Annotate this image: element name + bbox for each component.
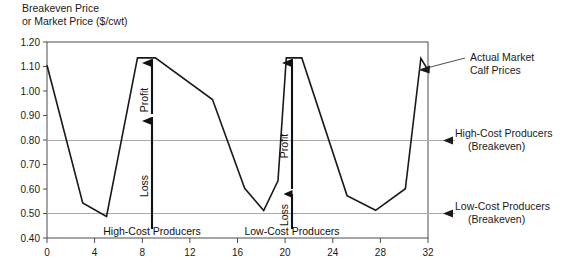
y-tick-label-0.60: 0.60: [21, 184, 41, 195]
x-tick-label-20: 20: [280, 247, 292, 258]
y-tick-label-0.50: 0.50: [21, 208, 41, 219]
x-tick-label-16: 16: [232, 247, 244, 258]
actual-market-calf-prices-callout: Actual Market Calf Prices: [419, 51, 534, 76]
x-tick-label-12: 12: [184, 247, 196, 258]
y-axis-tick-labels: 1.20 1.10 1.00 0.90 0.80 0.70 0.60 0.50 …: [21, 37, 41, 244]
x-tick-label-24: 24: [327, 247, 339, 258]
loss-label-high-cost: Loss: [138, 175, 150, 197]
low-cost-producers-group-label: Low-Cost Producers: [244, 225, 339, 237]
y-tick-label-0.90: 0.90: [21, 110, 41, 121]
y-tick-label-1.00: 1.00: [21, 86, 41, 97]
chart-figure: Breakeven Priceor Market Price ($/cwt) 1…: [0, 0, 575, 266]
x-tick-label-28: 28: [375, 247, 387, 258]
x-tick-label-8: 8: [140, 247, 146, 258]
high-cost-line-arrowhead-icon: [443, 137, 453, 145]
profit-label-high-cost: Profit: [138, 88, 150, 113]
y-axis-ticks: [43, 42, 47, 238]
low-cost-breakeven-label-line2: (Breakeven): [468, 213, 525, 225]
low-cost-breakeven-label-line1: Low-Cost Producers: [455, 200, 550, 212]
y-tick-label-0.80: 0.80: [21, 135, 41, 146]
profit-label-low-cost: Profit: [278, 134, 290, 159]
x-axis-tick-labels: 0 4 8 12 16 20 24 28 32: [44, 247, 434, 258]
low-cost-breakeven-label-group: Low-Cost Producers (Breakeven): [443, 200, 550, 225]
x-axis-ticks: [47, 238, 428, 243]
high-cost-breakeven-label-line2: (Breakeven): [468, 140, 525, 152]
x-tick-label-4: 4: [92, 247, 98, 258]
x-tick-label-32: 32: [422, 247, 434, 258]
y-tick-label-1.20: 1.20: [21, 37, 41, 48]
plot-area: 1.20 1.10 1.00 0.90 0.80 0.70 0.60 0.50 …: [0, 0, 575, 266]
x-tick-label-0: 0: [44, 247, 50, 258]
high-cost-producers-group-label: High-Cost Producers: [103, 225, 200, 237]
high-cost-breakeven-label-line1: High-Cost Producers: [455, 127, 552, 139]
y-tick-label-1.10: 1.10: [21, 61, 41, 72]
high-cost-breakeven-label-group: High-Cost Producers (Breakeven): [443, 127, 552, 152]
low-cost-line-arrowhead-icon: [443, 210, 453, 218]
y-tick-label-0.40: 0.40: [21, 233, 41, 244]
callout-label-line1: Actual Market: [470, 51, 534, 63]
y-tick-label-0.70: 0.70: [21, 159, 41, 170]
callout-label-line2: Calf Prices: [470, 64, 521, 76]
loss-label-low-cost: Loss: [278, 204, 290, 226]
